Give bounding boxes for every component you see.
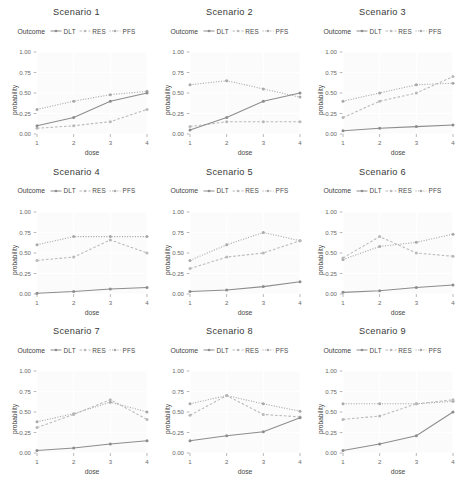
y-tick-label: 1.00 <box>19 48 31 55</box>
panel-title: Scenario 2 <box>153 7 306 17</box>
legend-label: DLT <box>217 28 229 35</box>
y-tick-label: 0.50 <box>325 408 337 415</box>
data-point-pfs <box>452 232 455 235</box>
data-point-dlt <box>189 128 192 131</box>
x-tick-label: 3 <box>262 299 266 306</box>
legend-item-pfs[interactable]: PFS <box>415 346 442 354</box>
data-point-dlt <box>452 411 455 414</box>
legend-item-pfs[interactable]: PFS <box>109 187 136 195</box>
y-tick-label: 0.50 <box>325 89 337 96</box>
data-point-pfs <box>262 402 265 405</box>
legend-item-res[interactable]: RES <box>232 346 259 354</box>
legend-key-res-icon <box>232 187 244 195</box>
data-point-dlt <box>452 123 455 126</box>
legend-item-pfs[interactable]: PFS <box>262 187 289 195</box>
legend-item-dlt[interactable]: DLT <box>203 187 229 195</box>
legend-label: RES <box>398 347 412 354</box>
legend-item-dlt[interactable]: DLT <box>203 346 229 354</box>
data-point-res <box>415 92 418 95</box>
legend-title: Outcome <box>323 28 351 35</box>
legend-item-res[interactable]: RES <box>232 187 259 195</box>
data-point-res <box>109 398 112 401</box>
legend-item-res[interactable]: RES <box>79 346 106 354</box>
x-tick-label: 3 <box>262 139 266 146</box>
legend: Outcome DLT RES PFS <box>306 27 459 35</box>
legend-item-dlt[interactable]: DLT <box>50 187 76 195</box>
legend-item-res[interactable]: RES <box>385 346 412 354</box>
data-point-pfs <box>378 402 381 405</box>
legend-label: PFS <box>123 347 136 354</box>
x-tick-label: 1 <box>341 299 345 306</box>
legend-key-res-icon <box>385 27 397 35</box>
facet-panel: Scenario 7Outcome DLT RES PFS0.000.250.5… <box>0 319 153 479</box>
data-point-res <box>189 125 192 128</box>
y-tick-label: 0.75 <box>172 69 184 76</box>
x-tick-label: 1 <box>35 299 39 306</box>
panel-title: Scenario 1 <box>0 7 153 17</box>
legend-item-pfs[interactable]: PFS <box>415 187 442 195</box>
x-tick-label: 4 <box>451 139 455 146</box>
legend-item-dlt[interactable]: DLT <box>356 27 382 35</box>
legend-label: DLT <box>370 347 382 354</box>
data-point-dlt <box>109 287 112 290</box>
legend: Outcome DLT RES PFS <box>0 346 153 354</box>
line-chart: 0.000.250.500.751.001234 <box>306 204 459 320</box>
data-point-dlt <box>262 100 265 103</box>
legend-item-dlt[interactable]: DLT <box>356 346 382 354</box>
x-tick-label: 4 <box>298 458 302 465</box>
data-point-dlt <box>342 290 345 293</box>
facet-panel: Scenario 1Outcome DLT RES PFS0.000.250.5… <box>0 0 153 160</box>
data-point-dlt <box>225 116 228 119</box>
x-tick-label: 4 <box>298 299 302 306</box>
legend-item-res[interactable]: RES <box>232 27 259 35</box>
legend: Outcome DLT RES PFS <box>306 187 459 195</box>
legend: Outcome DLT RES PFS <box>306 346 459 354</box>
legend-item-pfs[interactable]: PFS <box>109 346 136 354</box>
facet-panel: Scenario 6Outcome DLT RES PFS0.000.250.5… <box>306 160 459 320</box>
legend: Outcome DLT RES PFS <box>0 187 153 195</box>
legend-item-res[interactable]: RES <box>79 187 106 195</box>
legend-item-dlt[interactable]: DLT <box>50 346 76 354</box>
data-point-pfs <box>299 96 302 99</box>
data-point-pfs <box>109 235 112 238</box>
x-tick-label: 2 <box>72 458 76 465</box>
legend-label: DLT <box>370 28 382 35</box>
legend-title: Outcome <box>17 28 45 35</box>
legend-item-res[interactable]: RES <box>385 187 412 195</box>
facet-panel: Scenario 5Outcome DLT RES PFS0.000.250.5… <box>153 160 306 320</box>
legend-label: PFS <box>123 187 136 194</box>
y-tick-label: 0.25 <box>325 269 337 276</box>
legend-label: RES <box>398 187 412 194</box>
data-point-res <box>72 413 75 416</box>
line-chart: 0.000.250.500.751.001234 <box>306 363 459 479</box>
x-tick-label: 3 <box>109 299 113 306</box>
data-point-dlt <box>225 288 228 291</box>
legend-item-dlt[interactable]: DLT <box>50 27 76 35</box>
x-tick-label: 3 <box>109 458 113 465</box>
legend-item-pfs[interactable]: PFS <box>415 27 442 35</box>
legend-item-dlt[interactable]: DLT <box>356 187 382 195</box>
data-point-dlt <box>299 92 302 95</box>
data-point-res <box>146 418 149 421</box>
legend-item-res[interactable]: RES <box>79 27 106 35</box>
y-tick-label: 0.75 <box>19 69 31 76</box>
y-tick-label: 0.25 <box>19 110 31 117</box>
legend-item-pfs[interactable]: PFS <box>262 27 289 35</box>
data-point-dlt <box>342 449 345 452</box>
legend-item-pfs[interactable]: PFS <box>109 27 136 35</box>
x-tick-label: 1 <box>188 299 192 306</box>
y-tick-label: 0.75 <box>325 228 337 235</box>
data-point-dlt <box>72 447 75 450</box>
data-point-pfs <box>225 79 228 82</box>
legend-item-dlt[interactable]: DLT <box>203 27 229 35</box>
legend-key-dlt-icon <box>50 27 62 35</box>
legend-title: Outcome <box>170 187 198 194</box>
data-point-dlt <box>378 443 381 446</box>
legend-key-pfs-icon <box>415 346 427 354</box>
data-point-dlt <box>342 129 345 132</box>
y-tick-label: 0.50 <box>172 249 184 256</box>
legend-item-res[interactable]: RES <box>385 27 412 35</box>
legend-item-pfs[interactable]: PFS <box>262 346 289 354</box>
data-point-res <box>189 267 192 270</box>
data-point-dlt <box>225 434 228 437</box>
